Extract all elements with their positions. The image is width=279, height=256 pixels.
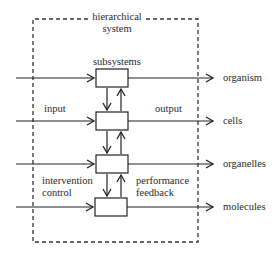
intervention-line1: intervention <box>42 175 93 187</box>
subsystem-box-molecules <box>95 198 127 216</box>
control-feedback-arrows <box>107 88 121 197</box>
subsystem-box-organism <box>96 69 128 87</box>
level-organism <box>16 69 213 87</box>
intervention-line2: control <box>42 187 93 199</box>
level-organelles <box>16 155 213 173</box>
performance-line2: feedback <box>136 187 189 199</box>
level-label-molecules: molecules <box>223 201 266 213</box>
container-title-line1: hierarchical <box>88 11 146 23</box>
subsystems-label: subsystems <box>93 56 141 68</box>
container-title: hierarchical system <box>88 11 146 35</box>
container-title-line2: system <box>88 23 146 35</box>
level-label-organelles: organelles <box>223 158 266 170</box>
subsystem-box-organelles <box>96 155 128 173</box>
subsystem-box-cells <box>96 112 128 130</box>
level-molecules <box>16 198 213 216</box>
level-label-organism: organism <box>223 72 262 84</box>
output-label: output <box>155 103 182 115</box>
performance-line1: performance <box>136 175 189 187</box>
performance-feedback-label: performance feedback <box>136 175 189 199</box>
input-label: input <box>44 103 66 115</box>
level-label-cells: cells <box>223 115 242 127</box>
hierarchy-diagram <box>0 0 279 256</box>
intervention-control-label: intervention control <box>42 175 93 199</box>
